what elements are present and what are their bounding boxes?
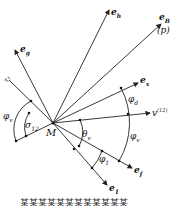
vector-diagram: eh eB (p) eg τ₁ ex φd v(12) φv σ12 M θv … (0, 0, 185, 206)
label-e-x: ex (140, 75, 149, 87)
label-e-g: eg (20, 44, 30, 56)
label-phi1: φ1 (99, 154, 109, 166)
label-phi-v-left: φv (3, 111, 13, 123)
label-sigma12: σ12 (25, 120, 39, 132)
label-e-B: eB (159, 12, 170, 24)
label-phi-v-right: φv (130, 131, 140, 143)
label-theta-v: θv (82, 129, 91, 141)
label-e1: e1 (109, 183, 119, 195)
label-e-h: eh (111, 7, 121, 19)
label-phi-d: φd (128, 94, 138, 106)
label-e-f: ef (134, 165, 142, 177)
label-v12: v(12) (152, 107, 167, 118)
label-M: M (46, 127, 56, 138)
caption: 某某某某某某某某某某某某 (20, 196, 128, 206)
label-p: (p) (157, 25, 170, 35)
